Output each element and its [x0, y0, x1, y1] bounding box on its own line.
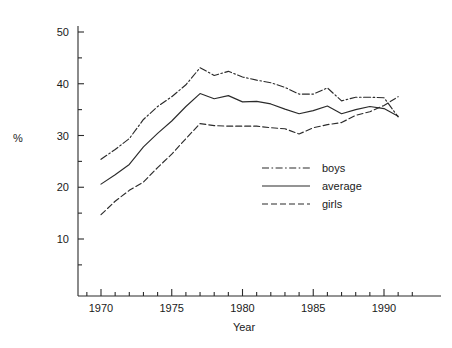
y-axis-tick-label: 40: [57, 78, 69, 90]
x-axis-tick-label: 1985: [301, 302, 325, 314]
series-line-girls: [101, 97, 398, 215]
x-axis-tick-label: 1975: [160, 302, 184, 314]
series-line-average: [101, 94, 398, 185]
y-axis-tick-label: 20: [57, 181, 69, 193]
axis-ticks-group: [78, 32, 412, 296]
x-axis-tick-label: 1990: [372, 302, 396, 314]
axis-tick-labels-group: 102030405019701975198019851990: [57, 26, 396, 314]
legend-label-girls: girls: [322, 198, 343, 210]
data-series-group: [101, 68, 398, 215]
chart-container: 102030405019701975198019851990 boysavera…: [0, 0, 452, 348]
x-axis-label: Year: [233, 321, 256, 333]
y-axis-tick-label: 50: [57, 26, 69, 38]
x-axis-tick-label: 1980: [230, 302, 254, 314]
legend-label-average: average: [322, 180, 362, 192]
x-axis-tick-label: 1970: [89, 302, 113, 314]
legend-label-boys: boys: [322, 162, 346, 174]
line-chart: 102030405019701975198019851990 boysavera…: [0, 0, 452, 348]
chart-legend: boysaveragegirls: [262, 162, 362, 210]
y-axis-label: %: [13, 132, 23, 144]
y-axis-tick-label: 30: [57, 130, 69, 142]
y-axis-tick-label: 10: [57, 233, 69, 245]
